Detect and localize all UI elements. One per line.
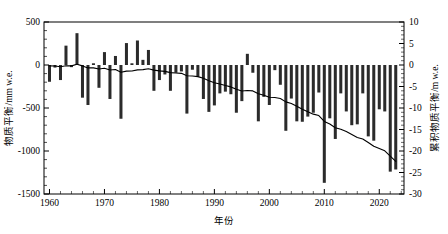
bar-2007: [306, 65, 309, 117]
bar-1995: [240, 65, 243, 101]
plot-background: [44, 22, 404, 194]
bar-1972: [114, 56, 117, 65]
mass-balance-chart: 5000-500-1000-15001050-5-10-15-20-25-301…: [0, 0, 448, 234]
left-tick-label--500: -500: [23, 103, 41, 113]
bar-2014: [345, 65, 348, 111]
bar-1988: [202, 65, 205, 99]
bar-2011: [328, 65, 331, 118]
right-tick-label--15: -15: [409, 125, 422, 135]
bar-2015: [350, 65, 353, 125]
bar-2002: [279, 65, 282, 85]
bar-1979: [152, 65, 155, 91]
bar-2006: [301, 65, 304, 122]
x-tick-label-2000: 2000: [260, 198, 279, 208]
bar-1987: [196, 65, 199, 77]
bar-1985: [185, 65, 188, 114]
bar-2018: [367, 65, 370, 136]
bar-1978: [147, 50, 150, 65]
bar-1983: [174, 65, 177, 73]
bar-1997: [251, 65, 254, 73]
bar-1980: [158, 65, 161, 80]
bar-1966: [81, 65, 84, 98]
bar-2003: [284, 65, 287, 131]
bar-1984: [180, 65, 183, 71]
right-tick-label--30: -30: [409, 189, 422, 199]
bar-2008: [312, 65, 315, 113]
x-tick-label-1970: 1970: [95, 198, 114, 208]
right-axis-title: 累积物质平衡/m w.e.: [429, 64, 440, 152]
bar-2016: [356, 65, 359, 124]
bar-1967: [86, 65, 89, 105]
bar-2000: [268, 65, 271, 105]
bar-1996: [246, 54, 249, 65]
right-tick-label--20: -20: [409, 146, 422, 156]
bar-1973: [119, 65, 122, 119]
bar-1965: [75, 33, 78, 65]
right-tick-label--25: -25: [409, 168, 422, 178]
bar-1963: [64, 46, 67, 65]
bar-1970: [103, 52, 106, 65]
left-tick-label--1000: -1000: [18, 146, 40, 156]
x-axis-title: 年份: [214, 215, 234, 226]
bar-1993: [229, 65, 232, 94]
right-tick-label--10: -10: [409, 103, 422, 113]
x-tick-label-1990: 1990: [205, 198, 224, 208]
left-tick-label-0: 0: [35, 60, 40, 70]
bar-1986: [191, 65, 194, 70]
left-tick-label-500: 500: [26, 17, 41, 27]
bar-2010: [323, 65, 326, 183]
bar-1974: [125, 43, 128, 65]
bar-2001: [273, 65, 276, 70]
chart-figure: 5000-500-1000-15001050-5-10-15-20-25-301…: [0, 0, 448, 234]
bar-2023: [394, 65, 397, 169]
left-tick-label--1500: -1500: [18, 189, 40, 199]
right-tick-label--5: -5: [409, 82, 417, 92]
bar-2004: [290, 65, 293, 99]
right-tick-label-0: 0: [409, 60, 414, 70]
bar-1989: [207, 65, 210, 112]
x-tick-label-1980: 1980: [150, 198, 169, 208]
bar-2019: [372, 65, 375, 141]
bar-1990: [213, 65, 216, 105]
bar-1960: [48, 65, 51, 82]
bar-1982: [169, 65, 172, 91]
bar-2017: [361, 65, 364, 93]
bar-2013: [339, 65, 342, 93]
bar-1999: [262, 65, 265, 97]
bar-1992: [224, 65, 227, 92]
bar-1968: [92, 63, 95, 65]
x-tick-label-1960: 1960: [40, 198, 59, 208]
bar-1976: [136, 40, 139, 65]
bar-1977: [141, 60, 144, 65]
left-axis-title: 物质平衡/mm w.e.: [3, 70, 14, 145]
x-tick-label-2010: 2010: [315, 198, 334, 208]
bar-1981: [163, 65, 166, 74]
x-tick-label-2020: 2020: [370, 198, 389, 208]
bar-1991: [218, 65, 221, 93]
right-tick-label-5: 5: [409, 39, 414, 49]
right-tick-label-10: 10: [409, 17, 419, 27]
bar-2009: [317, 65, 320, 93]
bar-1975: [130, 63, 133, 65]
bar-2005: [295, 65, 298, 121]
bar-2020: [378, 65, 381, 109]
bar-2021: [383, 65, 386, 111]
